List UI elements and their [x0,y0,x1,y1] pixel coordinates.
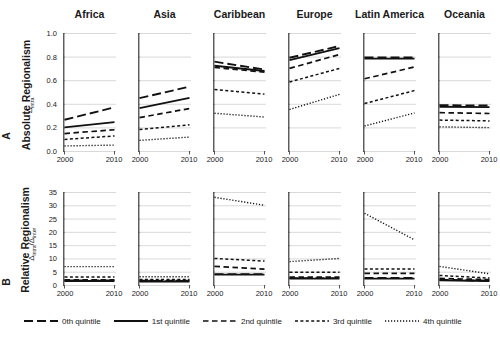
series-line-medium-dash [215,266,265,269]
x-tick-label: 2000 [132,155,149,164]
legend-swatch-medium-dash [203,316,237,326]
y-tick-label: 0 [31,281,57,290]
series-line-solid [290,48,340,60]
column-title-oceania: Oceania [416,8,500,20]
series-line-dotted [365,113,415,126]
legend-label: 0th quintile [62,317,101,326]
series-line-dotted [290,94,340,109]
plot-b-europe [288,192,341,285]
legend-label: 1st quintile [152,317,190,326]
x-tick-label: 2000 [57,155,74,164]
legend-swatch-solid [114,316,148,326]
plot-canvas [363,33,416,157]
plot-b-asia [138,192,191,285]
legend-item-long-dash[interactable]: 0th quintile [24,316,101,326]
x-tick-label: 2010 [406,289,423,298]
y-tick-label: 1.0 [31,29,57,38]
plot-a-latin-america [363,33,416,151]
x-tick-label: 2000 [207,155,224,164]
series-line-dotted [440,266,490,273]
x-tick-label: 2010 [181,289,198,298]
series-line-short-dash [215,89,265,94]
plot-canvas [213,33,266,157]
plot-canvas [288,192,341,291]
y-tick-label: 15 [31,241,57,250]
series-line-dotted [440,127,490,128]
plot-b-caribbean [213,192,266,285]
series-line-dotted [215,197,265,205]
series-line-solid [440,280,490,281]
x-tick-label: 2000 [57,289,74,298]
series-line-short-dash [440,275,490,278]
x-tick-label: 2010 [331,155,348,164]
legend-label: 3rd quintile [333,317,372,326]
series-line-dotted [140,137,190,140]
plot-a-asia [138,33,191,151]
y-tick-label: 35 [31,188,57,197]
legend-swatch-long-dash [24,316,58,326]
legend-label: 4th quintile [423,317,462,326]
x-tick-label: 2010 [256,289,273,298]
plot-a-oceania [438,33,491,151]
y-tick-label: 0.0 [31,147,57,156]
series-line-short-dash [290,68,340,82]
x-tick-label: 2010 [106,289,123,298]
series-line-medium-dash [440,113,490,114]
x-tick-label: 2010 [256,155,273,164]
legend-swatch-short-dash [295,316,329,326]
series-line-short-dash [140,125,190,130]
legend-item-short-dash[interactable]: 3rd quintile [295,316,372,326]
legend-item-dotted[interactable]: 4th quintile [385,316,462,326]
legend-swatch-dotted [385,316,419,326]
panel-a-letter: A [0,132,12,140]
y-tick-label: 0.6 [31,76,57,85]
plot-a-africa [63,33,116,151]
plot-canvas [213,192,266,291]
plot-b-oceania [438,192,491,285]
series-line-solid [65,122,115,127]
legend-item-medium-dash[interactable]: 2nd quintile [203,316,282,326]
plot-canvas [288,33,341,157]
y-tick-label: 0.8 [31,52,57,61]
series-line-short-dash [440,120,490,121]
x-tick-label: 2000 [432,289,449,298]
legend: 0th quintile1st quintile2nd quintile3rd … [24,312,484,330]
y-tick-label: 25 [31,214,57,223]
plot-canvas [438,192,491,291]
legend-item-solid[interactable]: 1st quintile [114,316,190,326]
x-tick-label: 2010 [406,155,423,164]
regionalism-figure: A Absolute Regionalism Δintra B Relative… [0,0,500,339]
series-line-long-dash [65,107,115,119]
y-tick-label: 0.4 [31,99,57,108]
x-tick-label: 2010 [481,289,498,298]
series-line-dotted [365,213,415,240]
plot-canvas [138,192,191,291]
series-line-long-dash [140,87,190,98]
panel-b-letter: B [0,278,12,286]
series-line-medium-dash [140,109,190,118]
plot-canvas [363,192,416,291]
x-tick-label: 2010 [181,155,198,164]
x-tick-label: 2010 [481,155,498,164]
x-tick-label: 2000 [207,289,224,298]
x-tick-label: 2000 [357,155,374,164]
y-tick-label: 30 [31,201,57,210]
series-line-medium-dash [65,130,115,134]
y-tick-label: 10 [31,254,57,263]
x-tick-label: 2000 [432,155,449,164]
x-tick-label: 2010 [106,155,123,164]
y-tick-label: 20 [31,227,57,236]
x-tick-label: 2000 [282,289,299,298]
plot-canvas [438,33,491,157]
series-line-short-dash [365,91,415,104]
x-tick-label: 2000 [132,289,149,298]
series-line-dotted [65,145,115,146]
y-tick-label: 5 [31,267,57,276]
x-tick-label: 2000 [357,289,374,298]
plot-canvas [63,33,116,157]
series-line-medium-dash [365,67,415,79]
series-line-short-dash [65,136,115,140]
plot-a-europe [288,33,341,151]
plot-b-latin-america [363,192,416,285]
legend-label: 2nd quintile [241,317,282,326]
